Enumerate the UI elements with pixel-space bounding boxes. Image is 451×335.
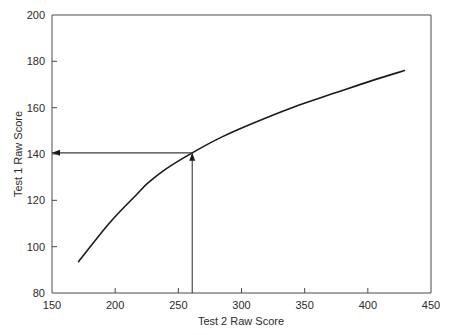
chart-container: 80100120140160180200 1502002503003504004… bbox=[0, 0, 451, 335]
y-tick-label: 180 bbox=[27, 55, 45, 67]
y-tick-label: 200 bbox=[27, 9, 45, 21]
x-tick-label: 350 bbox=[295, 299, 313, 311]
horizontal-reference-arrow-head bbox=[52, 150, 60, 156]
x-tick-label: 250 bbox=[169, 299, 187, 311]
x-tick-label: 200 bbox=[106, 299, 124, 311]
y-axis-title: Test 1 Raw Score bbox=[12, 111, 24, 197]
data-curve bbox=[79, 71, 405, 262]
x-tick-label: 150 bbox=[43, 299, 61, 311]
plot-frame bbox=[52, 15, 431, 293]
x-tick-label: 300 bbox=[232, 299, 250, 311]
y-axis-tick-labels: 80100120140160180200 bbox=[27, 9, 45, 299]
y-tick-label: 120 bbox=[27, 194, 45, 206]
x-axis-ticks bbox=[115, 288, 368, 293]
y-tick-label: 80 bbox=[33, 287, 45, 299]
x-axis-tick-labels: 150200250300350400450 bbox=[43, 299, 440, 311]
x-axis-title: Test 2 Raw Score bbox=[198, 315, 284, 327]
y-tick-label: 160 bbox=[27, 102, 45, 114]
x-tick-label: 400 bbox=[359, 299, 377, 311]
y-tick-label: 140 bbox=[27, 148, 45, 160]
reference-arrows bbox=[52, 150, 195, 293]
x-tick-label: 450 bbox=[422, 299, 440, 311]
score-equivalency-line-chart: 80100120140160180200 1502002503003504004… bbox=[0, 0, 451, 335]
y-tick-label: 100 bbox=[27, 241, 45, 253]
